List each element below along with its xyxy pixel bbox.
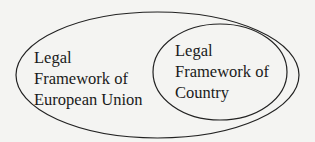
outer-label-line: European Union	[34, 89, 143, 110]
outer-ellipse-label: Legal Framework of European Union	[34, 47, 143, 110]
diagram-canvas: Legal Framework of European Union Legal …	[0, 0, 315, 142]
inner-label-line: Legal	[175, 40, 269, 61]
inner-ellipse-label: Legal Framework of Country	[175, 40, 269, 103]
outer-label-line: Framework of	[34, 68, 143, 89]
inner-label-line: Framework of	[175, 61, 269, 82]
inner-label-line: Country	[175, 82, 269, 103]
outer-label-line: Legal	[34, 47, 143, 68]
